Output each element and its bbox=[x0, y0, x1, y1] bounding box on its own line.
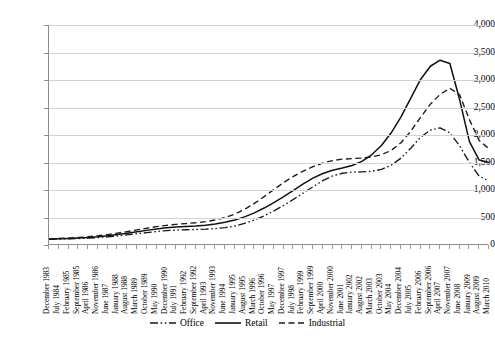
x-axis-tick-mark bbox=[312, 245, 313, 249]
x-axis-tick-label: August 1988 bbox=[121, 276, 129, 314]
series-line-office bbox=[49, 128, 489, 239]
x-axis-tick-label: April 2000 bbox=[317, 282, 325, 314]
x-axis-tick-mark bbox=[58, 245, 59, 249]
x-axis-tick-label: January 2009 bbox=[464, 274, 472, 314]
x-axis-tick-mark bbox=[253, 245, 254, 249]
x-axis-tick-mark bbox=[302, 245, 303, 249]
gridline bbox=[49, 25, 489, 26]
x-axis-tick-mark bbox=[77, 245, 78, 249]
x-axis-tick-mark bbox=[361, 245, 362, 249]
x-axis-tick-mark bbox=[273, 245, 274, 249]
series-line-retail bbox=[49, 60, 489, 239]
legend-label: Retail bbox=[245, 318, 268, 328]
series-line-industrial bbox=[49, 88, 489, 239]
x-axis-tick-label: March 2010 bbox=[483, 278, 491, 314]
x-axis-tick-mark bbox=[341, 245, 342, 249]
x-axis-tick-label: June 1987 bbox=[102, 284, 110, 314]
x-axis-tick-label: September 2006 bbox=[425, 266, 433, 314]
x-axis-tick-label: March 2003 bbox=[366, 278, 374, 314]
x-axis-tick-mark bbox=[87, 245, 88, 249]
x-axis-tick-mark bbox=[410, 245, 411, 249]
x-axis-tick-mark bbox=[332, 245, 333, 249]
x-axis-tick-mark bbox=[439, 245, 440, 249]
x-axis-tick-label: March 1989 bbox=[131, 278, 139, 314]
x-axis-tick-label: November 1986 bbox=[92, 266, 100, 314]
x-axis-tick-mark bbox=[165, 245, 166, 249]
x-axis-tick-mark bbox=[68, 245, 69, 249]
gridline bbox=[49, 190, 489, 191]
x-axis-tick-label: December 2004 bbox=[395, 267, 403, 314]
x-axis-tick-mark bbox=[224, 245, 225, 249]
legend-item-retail[interactable]: Retail bbox=[215, 318, 268, 328]
legend-label: Office bbox=[180, 318, 204, 328]
x-axis-tick-mark bbox=[126, 245, 127, 249]
x-axis-tick-label: July 1991 bbox=[170, 285, 178, 314]
x-axis-tick-mark bbox=[292, 245, 293, 249]
x-axis-tick-label: July 1998 bbox=[288, 285, 296, 314]
x-axis-tick-mark bbox=[156, 245, 157, 249]
x-axis-tick-label: May 2004 bbox=[385, 284, 393, 314]
x-axis-tick-mark bbox=[322, 245, 323, 249]
x-axis-tick-mark bbox=[283, 245, 284, 249]
x-axis-tick-mark bbox=[146, 245, 147, 249]
gridline bbox=[49, 80, 489, 81]
x-axis-tick-mark bbox=[351, 245, 352, 249]
x-axis-labels: December 1983July 1984February 1985Septe… bbox=[48, 250, 488, 312]
x-axis-tick-label: March 1996 bbox=[249, 278, 257, 314]
x-axis-tick-mark bbox=[459, 245, 460, 249]
x-axis-tick-label: November 1993 bbox=[209, 266, 217, 314]
x-axis-tick-label: August 2009 bbox=[473, 276, 481, 314]
gridline bbox=[49, 135, 489, 136]
line-chart: 4,0003,5003,0002,5002,0001,5001,0005000 … bbox=[0, 0, 495, 344]
gridline bbox=[49, 53, 489, 54]
x-axis-tick-mark bbox=[234, 245, 235, 249]
x-axis-tick-mark bbox=[97, 245, 98, 249]
x-axis-ticks bbox=[48, 245, 488, 249]
x-axis-tick-label: June 2001 bbox=[337, 284, 345, 314]
x-axis-tick-label: December 1997 bbox=[278, 267, 286, 314]
legend-label: Industrial bbox=[309, 318, 345, 328]
x-axis-tick-label: January 1988 bbox=[112, 274, 120, 314]
gridline bbox=[49, 108, 489, 109]
x-axis-tick-mark bbox=[390, 245, 391, 249]
x-axis-tick-label: November 2000 bbox=[327, 266, 335, 314]
chart-legend: OfficeRetailIndustrial bbox=[0, 314, 495, 332]
x-axis-tick-label: August 2002 bbox=[356, 276, 364, 314]
x-axis-tick-label: September 1999 bbox=[307, 266, 315, 314]
solid-line-icon bbox=[215, 319, 241, 327]
x-axis-tick-mark bbox=[263, 245, 264, 249]
x-axis-tick-label: November 2007 bbox=[444, 266, 452, 314]
x-axis-tick-mark bbox=[48, 245, 49, 249]
x-axis-tick-mark bbox=[478, 245, 479, 249]
x-axis-tick-mark bbox=[175, 245, 176, 249]
x-axis-tick-mark bbox=[371, 245, 372, 249]
x-axis-tick-label: February 2006 bbox=[415, 271, 423, 314]
x-axis-tick-label: October 1989 bbox=[141, 274, 149, 314]
x-axis-tick-mark bbox=[136, 245, 137, 249]
x-axis-tick-mark bbox=[468, 245, 469, 249]
x-axis-tick-label: December 1983 bbox=[43, 267, 51, 314]
x-axis-tick-label: July 1984 bbox=[53, 285, 61, 314]
x-axis-tick-label: December 1990 bbox=[161, 267, 169, 314]
legend-item-office[interactable]: Office bbox=[150, 318, 204, 328]
plot-area bbox=[48, 25, 488, 245]
x-axis-tick-label: June 1994 bbox=[219, 284, 227, 314]
x-axis-tick-label: February 1985 bbox=[63, 271, 71, 314]
x-axis-tick-label: October 2003 bbox=[376, 274, 384, 314]
x-axis-tick-mark bbox=[420, 245, 421, 249]
x-axis-tick-mark bbox=[214, 245, 215, 249]
x-axis-tick-label: February 1992 bbox=[180, 271, 188, 314]
x-axis-tick-label: January 2002 bbox=[346, 274, 354, 314]
x-axis-tick-mark bbox=[116, 245, 117, 249]
legend-item-industrial[interactable]: Industrial bbox=[279, 318, 345, 328]
x-axis-tick-label: April 2007 bbox=[434, 282, 442, 314]
x-axis-tick-label: February 1999 bbox=[297, 271, 305, 314]
x-axis-tick-mark bbox=[400, 245, 401, 249]
x-axis-tick-mark bbox=[107, 245, 108, 249]
x-axis-tick-mark bbox=[449, 245, 450, 249]
x-axis-tick-mark bbox=[185, 245, 186, 249]
x-axis-tick-label: January 1995 bbox=[229, 274, 237, 314]
x-axis-tick-mark bbox=[204, 245, 205, 249]
gridline bbox=[49, 218, 489, 219]
x-axis-tick-label: June 2008 bbox=[454, 284, 462, 314]
